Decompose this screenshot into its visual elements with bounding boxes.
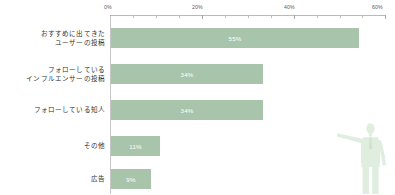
axis-tick-label-40: 40% bbox=[284, 4, 295, 10]
bar-container: 11% bbox=[111, 136, 160, 156]
bar-row: その他 11% bbox=[0, 129, 395, 163]
bar-value-label: 9% bbox=[111, 176, 151, 183]
bar: 55% bbox=[111, 28, 359, 48]
category-label: おすすめに出てきた ユーザーの投稿 bbox=[1, 29, 105, 48]
bar-row: フォローしている知人 34% bbox=[0, 93, 395, 127]
category-label: 広告 bbox=[1, 174, 105, 184]
bar-container: 9% bbox=[111, 169, 151, 189]
bar-container: 34% bbox=[111, 64, 263, 84]
category-label: フォローしている知人 bbox=[1, 105, 105, 115]
bar-container: 55% bbox=[111, 28, 359, 48]
bar-rows: おすすめに出てきた ユーザーの投稿 55% フォローしている インフルエンサーの… bbox=[0, 16, 395, 195]
horizontal-bar-chart: 0% 20% 40% 60% おすすめに出てきた ユーザーの投稿 55% フォロ… bbox=[0, 0, 395, 195]
axis-tick-label-0: 0% bbox=[104, 4, 112, 10]
bar-row: 広告 9% bbox=[0, 162, 395, 195]
bar-row: フォローしている インフルエンサーの投稿 34% bbox=[0, 57, 395, 91]
bar-value-label: 34% bbox=[111, 71, 263, 78]
axis-tick-label-60: 60% bbox=[372, 4, 383, 10]
bar: 34% bbox=[111, 100, 263, 120]
category-label: その他 bbox=[1, 141, 105, 151]
category-label: フォローしている インフルエンサーの投稿 bbox=[1, 65, 105, 84]
bar: 11% bbox=[111, 136, 160, 156]
bar-value-label: 11% bbox=[111, 143, 160, 150]
bar-row: おすすめに出てきた ユーザーの投稿 55% bbox=[0, 21, 395, 55]
bar-value-label: 55% bbox=[111, 35, 359, 42]
bar-value-label: 34% bbox=[111, 107, 263, 114]
bar: 9% bbox=[111, 169, 151, 189]
axis-tick-label-20: 20% bbox=[192, 4, 203, 10]
bar: 34% bbox=[111, 64, 263, 84]
bar-container: 34% bbox=[111, 100, 263, 120]
